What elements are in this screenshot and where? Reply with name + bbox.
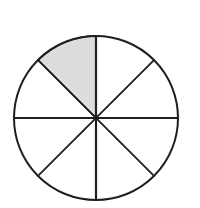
circle-sector-diagram: 1/8	[0, 0, 200, 208]
circle-center-point	[94, 116, 99, 121]
figure-canvas: 1/8	[0, 0, 200, 208]
diagram-background	[0, 0, 200, 208]
